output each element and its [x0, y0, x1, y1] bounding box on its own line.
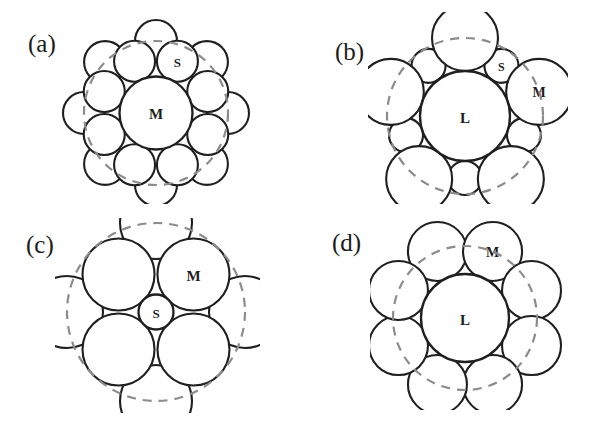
circle-label-s: S [174, 55, 181, 70]
core-label-l: L [460, 110, 470, 126]
core-label-l: L [460, 312, 470, 328]
panel-label-b: (b) [335, 38, 364, 66]
panel-label-c: (c) [26, 231, 54, 259]
panel-b: SML [368, 12, 568, 204]
circle-inner-ring [187, 71, 228, 112]
circle-inner-ring [114, 41, 155, 82]
circle-inner-ring [84, 114, 125, 155]
circle-medium-ring [368, 59, 424, 125]
circle-medium-ring [370, 261, 428, 320]
circle-packing-figure: (a)SM(b)SML(c)MS(d)ML [0, 0, 607, 421]
panel-label-d: (d) [332, 229, 361, 257]
circle-medium-ring [463, 355, 522, 410]
core-label-m: M [149, 106, 163, 122]
circle-inner-ring [114, 144, 155, 185]
core-label-s: S [152, 306, 159, 321]
circle-label-m: M [186, 268, 200, 284]
panel-d: ML [370, 220, 565, 410]
circle-inner-ring [157, 144, 198, 185]
panel-a: SM [60, 14, 255, 204]
circle-inner-ring [84, 71, 125, 112]
circle-label-s: S [498, 60, 505, 74]
panel-label-a: (a) [28, 30, 56, 58]
circle-inner-ring [187, 114, 228, 155]
panel-c: MS [55, 218, 260, 413]
